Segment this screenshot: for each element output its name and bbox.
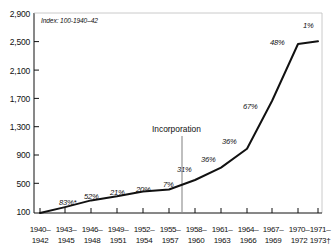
x-tick-label-line2: 1973† xyxy=(303,236,336,247)
x-tick-label-line1: 1946– xyxy=(82,225,103,234)
x-tick-label-line1: 1955– xyxy=(160,225,181,234)
x-tick-label-line1: 1961– xyxy=(212,225,233,234)
x-tick-label-line1: 1943– xyxy=(56,225,77,234)
y-tick-marks xyxy=(34,42,39,184)
x-tick-label-line1: 1940– xyxy=(30,225,51,234)
x-tick-label: 1971– 1973† xyxy=(303,225,336,246)
x-tick-label-line1: 1967– xyxy=(263,225,284,234)
data-line xyxy=(40,41,318,213)
x-tick-marks xyxy=(40,208,318,213)
x-tick-label-line1: 1949– xyxy=(108,225,129,234)
x-tick-label-line1: 1952– xyxy=(134,225,155,234)
x-tick-label-line1: 1958– xyxy=(186,225,207,234)
x-tick-label-line1: 1971– xyxy=(310,225,331,234)
